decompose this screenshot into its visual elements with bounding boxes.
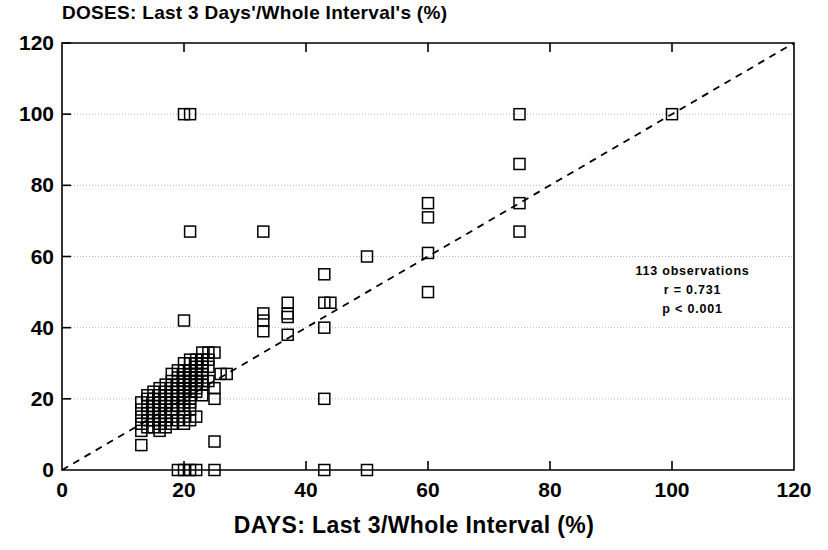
data-point-marker xyxy=(282,311,293,322)
data-point-marker xyxy=(282,297,293,308)
data-points-group xyxy=(136,109,678,476)
y-tick-label: 60 xyxy=(8,245,54,269)
data-point-marker xyxy=(179,315,190,326)
data-point-marker xyxy=(514,226,525,237)
data-point-marker xyxy=(209,436,220,447)
y-tick-label: 120 xyxy=(8,31,54,55)
y-tick-label: 40 xyxy=(8,316,54,340)
data-point-marker xyxy=(423,198,434,209)
y-tick-label: 80 xyxy=(8,173,54,197)
y-tick-label: 20 xyxy=(8,387,54,411)
x-tick-label: 20 xyxy=(154,478,214,502)
data-point-marker xyxy=(258,226,269,237)
data-point-marker xyxy=(319,269,330,280)
chart-title: DOSES: Last 3 Days'/Whole Interval's (%) xyxy=(62,2,447,24)
data-point-marker xyxy=(423,212,434,223)
annotation-observations: 113 observations xyxy=(610,262,775,281)
x-tick-label: 0 xyxy=(32,478,92,502)
data-point-marker xyxy=(136,440,147,451)
data-point-marker xyxy=(185,226,196,237)
data-point-marker xyxy=(514,198,525,209)
data-point-marker xyxy=(514,158,525,169)
data-point-marker xyxy=(258,308,269,319)
x-axis-title: DAYS: Last 3/Whole Interval (%) xyxy=(0,512,828,539)
gridlines-group xyxy=(62,114,794,399)
statistics-annotation: 113 observations r = 0.731 p < 0.001 xyxy=(610,262,775,319)
data-point-marker xyxy=(362,251,373,262)
annotation-pvalue: p < 0.001 xyxy=(610,300,775,319)
annotation-correlation: r = 0.731 xyxy=(610,281,775,300)
x-tick-label: 100 xyxy=(642,478,702,502)
data-point-marker xyxy=(282,308,293,319)
data-point-marker xyxy=(258,315,269,326)
data-point-marker xyxy=(423,287,434,298)
scatter-plot-figure: DOSES: Last 3 Days'/Whole Interval's (%)… xyxy=(0,0,828,550)
x-tick-label: 80 xyxy=(520,478,580,502)
y-tick-label: 100 xyxy=(8,102,54,126)
x-tick-label: 60 xyxy=(398,478,458,502)
x-tick-label: 40 xyxy=(276,478,336,502)
x-tick-label: 120 xyxy=(764,478,824,502)
